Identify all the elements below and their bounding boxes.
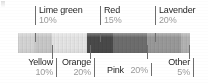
callout-orange-pct: 20% <box>48 68 91 78</box>
leader-line-red <box>100 33 101 42</box>
callout-other: Other 5% <box>149 58 194 77</box>
callout-pink-name: Pink <box>107 65 124 75</box>
bar-segment-orange <box>52 33 86 53</box>
callout-red-pct: 15% <box>104 16 122 26</box>
scan-artifact-speck <box>1 1 5 7</box>
bar-segment-lime-green <box>35 33 52 53</box>
callout-red: Red 15% <box>100 6 122 25</box>
callout-orange: Orange 20% <box>48 58 95 77</box>
callout-pink: Pink 20% <box>100 63 152 76</box>
color-distribution-figure: Lime green 10% Red 15% Lavender 20% Yell… <box>0 0 208 83</box>
bar-segment-pink <box>113 33 147 53</box>
callout-lime-green: Lime green 10% <box>35 6 83 25</box>
bar-segment-lavender <box>147 33 181 53</box>
callout-lime-green-pct: 10% <box>39 16 83 26</box>
leader-line-lavender <box>155 33 156 42</box>
callout-yellow-pct: 10% <box>10 68 53 78</box>
leader-line-lime-green <box>35 33 36 42</box>
callout-other-pct: 5% <box>149 68 190 78</box>
callout-lavender-pct: 20% <box>159 16 195 26</box>
bar-segment-yellow <box>18 33 35 53</box>
leader-line-pink <box>147 45 148 59</box>
callout-lavender: Lavender 20% <box>155 6 195 25</box>
stacked-bar <box>18 33 190 53</box>
callout-pink-pct: 20% <box>130 65 148 75</box>
